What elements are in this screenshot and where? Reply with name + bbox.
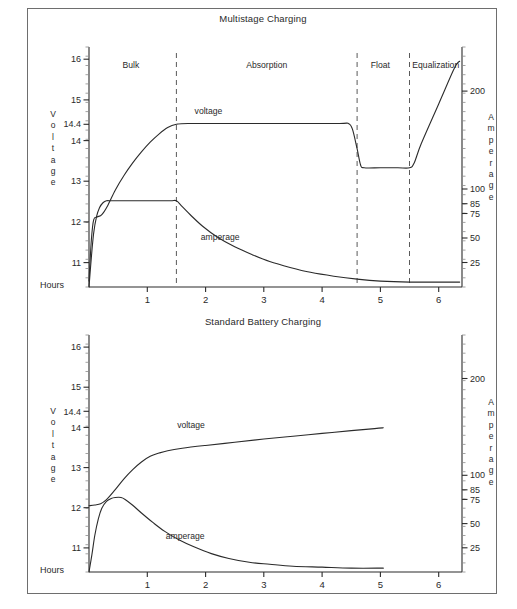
- left-axis-title-voltage-multistage: Voltage: [45, 109, 61, 189]
- x-axis-tick-label: 5: [378, 294, 383, 305]
- right-axis-title-letter-char: r: [483, 158, 499, 169]
- left-axis-title-letter-char: g: [45, 166, 61, 177]
- annotation-label: Absorption: [246, 60, 287, 70]
- annotation-label: voltage: [195, 106, 223, 116]
- left-axis-title-letter-char: a: [45, 155, 61, 166]
- right-axis-tick-label: 75: [470, 209, 480, 219]
- right-axis-title-letter-char: a: [483, 454, 499, 465]
- x-axis-tick-label: 3: [261, 294, 266, 305]
- left-axis-tick-label: 15: [71, 95, 81, 105]
- chart-panel-multistage: Multistage Charging 1112131414.415162550…: [28, 9, 498, 309]
- right-axis-title-letter-char: e: [483, 192, 499, 203]
- left-axis-title-letter-char: e: [45, 177, 61, 188]
- right-axis-title-amperage-standard: Amperage: [483, 397, 499, 488]
- right-axis-title-letter-char: r: [483, 443, 499, 454]
- left-axis-title-letter-char: V: [45, 406, 61, 417]
- annotation-label: voltage: [177, 420, 205, 430]
- plot-area-standard: 1112131414.4151625507585100200123456volt…: [28, 309, 498, 595]
- left-axis-title-letter-char: V: [45, 109, 61, 120]
- left-axis-tick-label: 12: [71, 503, 81, 513]
- right-axis-tick-label: 75: [470, 495, 480, 505]
- left-axis-tick-label: 12: [71, 217, 81, 227]
- series-line-amperage: [89, 497, 383, 572]
- right-axis-title-letter-char: e: [483, 146, 499, 157]
- right-axis-title-letter-char: m: [483, 123, 499, 134]
- right-axis-title-letter-char: p: [483, 420, 499, 431]
- series-line-voltage: [89, 61, 460, 281]
- left-axis-tick-label: 13: [71, 176, 81, 186]
- x-axis-tick-label: 1: [145, 579, 150, 590]
- right-axis-tick-label: 25: [470, 258, 480, 268]
- x-axis-tick-label: 6: [436, 579, 441, 590]
- x-axis-title-hours-multistage: Hours: [40, 280, 64, 290]
- left-axis-tick-label: 14.4: [63, 407, 81, 417]
- left-axis-tick-label: 13: [71, 463, 81, 473]
- left-axis-title-letter-char: e: [45, 474, 61, 485]
- left-axis-tick-label: 11: [72, 258, 81, 268]
- right-axis-tick-label: 200: [470, 86, 485, 96]
- left-axis-title-letter-char: t: [45, 440, 61, 451]
- left-axis-title-letter-char: t: [45, 143, 61, 154]
- right-axis-tick-label: 25: [470, 543, 480, 553]
- series-line-voltage: [89, 428, 383, 506]
- x-axis-tick-label: 6: [436, 294, 441, 305]
- right-axis-tick-label: 200: [470, 374, 485, 384]
- left-axis-title-voltage-standard: Voltage: [45, 406, 61, 486]
- x-axis-tick-label: 4: [319, 294, 324, 305]
- left-axis-tick-label: 14.4: [63, 119, 81, 129]
- right-axis-tick-label: 50: [470, 233, 480, 243]
- x-axis-title-hours-standard: Hours: [40, 565, 64, 575]
- left-axis-tick-label: 15: [71, 382, 81, 392]
- right-axis-title-letter-char: A: [483, 112, 499, 123]
- right-axis-title-letter-char: p: [483, 135, 499, 146]
- annotation-label: amperage: [201, 232, 240, 242]
- annotation-label: Float: [371, 60, 391, 70]
- left-axis-title-letter-char: g: [45, 463, 61, 474]
- x-axis-tick-label: 1: [145, 294, 150, 305]
- left-axis-title-letter-char: o: [45, 417, 61, 428]
- right-axis-title-letter-char: m: [483, 408, 499, 419]
- series-line-amperage: [89, 200, 460, 287]
- plot-area-multistage: 1112131414.4151625507585100200123456Bulk…: [28, 9, 498, 309]
- x-axis-tick-label: 2: [203, 294, 208, 305]
- right-axis-title-letter-char: a: [483, 169, 499, 180]
- right-axis-title-letter-char: g: [483, 465, 499, 476]
- annotation-label: Bulk: [123, 60, 140, 70]
- left-axis-tick-label: 11: [72, 543, 81, 553]
- annotation-label: Equalization: [412, 60, 459, 70]
- right-axis-tick-label: 85: [470, 199, 480, 209]
- x-axis-tick-label: 3: [261, 579, 266, 590]
- right-axis-title-letter-char: g: [483, 180, 499, 191]
- x-axis-tick-label: 5: [378, 579, 383, 590]
- right-axis-tick-label: 85: [470, 485, 480, 495]
- left-axis-title-letter-char: l: [45, 429, 61, 440]
- right-axis-title-letter-char: e: [483, 431, 499, 442]
- right-axis-title-letter-char: e: [483, 477, 499, 488]
- x-axis-tick-label: 4: [319, 579, 324, 590]
- left-axis-tick-label: 14: [71, 136, 81, 146]
- x-axis-tick-label: 2: [203, 579, 208, 590]
- left-axis-tick-label: 14: [71, 423, 81, 433]
- left-axis-tick-label: 16: [71, 54, 81, 64]
- right-axis-title-letter-char: A: [483, 397, 499, 408]
- left-axis-tick-label: 16: [71, 342, 81, 352]
- figure-border: Multistage Charging 1112131414.415162550…: [27, 8, 497, 594]
- right-axis-tick-label: 50: [470, 519, 480, 529]
- chart-panel-standard: Standard Battery Charging 1112131414.415…: [28, 309, 498, 595]
- left-axis-title-letter-char: a: [45, 452, 61, 463]
- right-axis-title-amperage-multistage: Amperage: [483, 112, 499, 203]
- left-axis-title-letter-char: o: [45, 120, 61, 131]
- left-axis-title-letter-char: l: [45, 132, 61, 143]
